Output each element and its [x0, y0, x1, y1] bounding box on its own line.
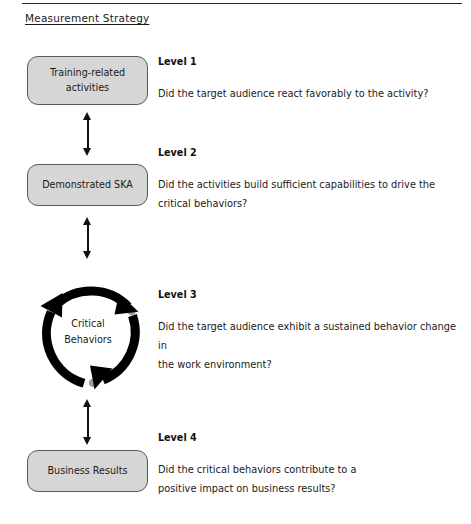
question-level-4: Did the critical behaviors contribute to… [158, 460, 458, 498]
arrowhead-down-icon [83, 437, 91, 445]
header-rule [22, 3, 462, 4]
connector-shaft [87, 118, 88, 150]
node-level-2[interactable]: Demonstrated SKA [27, 164, 148, 206]
question-level-3: Did the target audience exhibit a sustai… [158, 317, 458, 374]
page-title: Measurement Strategy [25, 12, 149, 24]
cycle-arrowhead-icons [41, 293, 139, 390]
node-level-2-label: Demonstrated SKA [42, 178, 133, 193]
node-level-1-label: Training-related activities [50, 66, 125, 96]
diagram-canvas: Measurement Strategy Training-related ac… [0, 0, 471, 524]
connector-shaft [87, 223, 88, 253]
heading-level-2: Level 2 [158, 147, 197, 158]
node-level-4-label: Business Results [48, 464, 128, 479]
node-level-3-cycle[interactable]: Critical Behaviors [26, 270, 150, 394]
cycle-arrows-icon [26, 270, 150, 394]
heading-level-4: Level 4 [158, 432, 197, 443]
arrowhead-down-icon [83, 251, 91, 259]
node-level-4[interactable]: Business Results [27, 450, 148, 492]
heading-level-1: Level 1 [158, 56, 197, 67]
heading-level-3: Level 3 [158, 289, 197, 300]
arrowhead-down-icon [83, 148, 91, 156]
question-level-2: Did the activities build sufficient capa… [158, 175, 458, 213]
question-level-1: Did the target audience react favorably … [158, 84, 458, 103]
node-level-1[interactable]: Training-related activities [27, 56, 148, 105]
connector-shaft [87, 405, 88, 439]
